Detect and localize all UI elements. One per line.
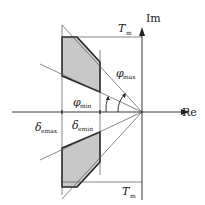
tm-bottom-sub: m [130,192,136,199]
real-axis-label: Re [182,106,197,119]
imag-axis-label: Im [146,12,161,25]
imag-axis-arrow-icon [139,27,145,36]
delta-emin-sub: emin [78,125,93,132]
delta-emax-sub: emax [41,127,58,134]
tm-top-sub: m [126,29,132,36]
pole-region-diagram: Im Re T m T m φ max φ min δ emax δ emin [0,0,205,205]
phi-min-sub: min [80,102,92,109]
phi-max-sub: max [123,73,136,80]
